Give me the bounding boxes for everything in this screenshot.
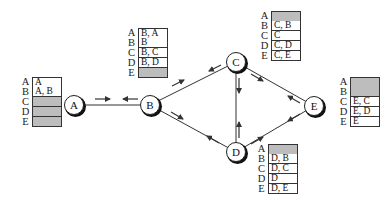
node-a: A xyxy=(64,95,84,115)
table-row: BA, B xyxy=(32,87,62,97)
routing-table-c: A BC, B CC DC, D EC, E xyxy=(271,11,301,61)
node-d: D xyxy=(226,142,246,162)
arrow-e-to-d xyxy=(288,114,300,121)
arrow-b-to-c xyxy=(172,80,184,86)
routing-table-e: A B CE, C DE, D EE xyxy=(350,77,380,127)
arrow-d-to-b xyxy=(207,136,219,143)
edge-b-d xyxy=(150,105,236,152)
arrow-c-to-e xyxy=(251,74,263,81)
network-diagram: A B C D E AA BA, B C D E AB, A BB CB, C … xyxy=(0,0,392,211)
table-row: DB, D xyxy=(138,58,168,68)
node-b: B xyxy=(140,95,160,115)
table-row: ED, E xyxy=(268,184,298,194)
edge-c-e xyxy=(236,62,314,106)
table-row: EE xyxy=(350,117,380,127)
table-row: E xyxy=(32,117,62,127)
node-c: C xyxy=(226,52,246,72)
routing-table-a: AA BA, B C D E xyxy=(32,77,62,127)
table-row: E xyxy=(138,68,168,78)
node-e: E xyxy=(304,96,324,116)
table-row: D xyxy=(32,107,62,117)
routing-table-d: A BD, B CD, C DD ED, E xyxy=(268,144,298,194)
table-row: A xyxy=(350,77,380,87)
table-row: C xyxy=(32,97,62,107)
routing-table-b: AB, A BB CB, C DB, D E xyxy=(138,28,168,78)
table-row: EC, E xyxy=(271,51,301,61)
